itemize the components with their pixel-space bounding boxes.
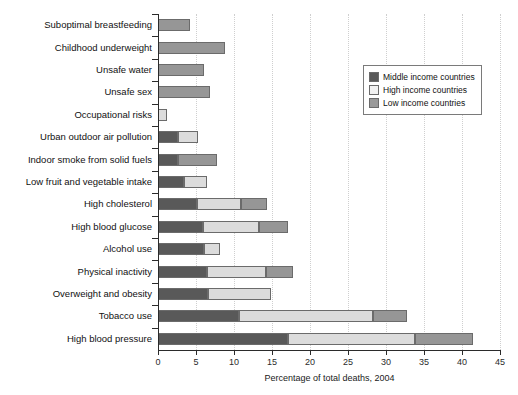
bar-segment — [184, 176, 208, 188]
legend-item: Low income countries — [369, 97, 475, 109]
bar-segment — [288, 333, 415, 345]
bar-row — [158, 310, 500, 322]
bar-segment — [158, 310, 239, 322]
category-label: Overweight and obesity — [2, 288, 152, 299]
bar-row — [158, 42, 500, 54]
category-label: Urban outdoor air pollution — [2, 131, 152, 142]
x-axis-tick — [424, 350, 425, 355]
bar-segment — [178, 131, 199, 143]
x-axis-tick-label: 0 — [143, 357, 173, 367]
bar-segment — [158, 221, 203, 233]
x-axis-tick-label: 45 — [485, 357, 515, 367]
bar-segment — [158, 64, 204, 76]
bar-segment — [158, 333, 288, 345]
bar-row — [158, 333, 500, 345]
bar-segment — [259, 221, 288, 233]
x-axis-tick — [196, 350, 197, 355]
legend-swatch-icon — [369, 85, 379, 95]
bar-segment — [239, 310, 373, 322]
y-axis-tick — [152, 59, 158, 60]
bar-segment — [158, 154, 178, 166]
category-axis-labels: Suboptimal breastfeedingChildhood underw… — [0, 14, 152, 350]
x-axis-tick — [348, 350, 349, 355]
bar-segment — [241, 198, 268, 210]
category-label: Childhood underweight — [2, 42, 152, 53]
y-axis-line — [158, 14, 159, 350]
bar-row — [158, 154, 500, 166]
legend-item: High income countries — [369, 84, 475, 96]
y-axis-tick — [152, 104, 158, 105]
legend-swatch-icon — [369, 98, 379, 108]
bar-segment — [208, 288, 271, 300]
legend-label: Middle income countries — [383, 71, 475, 83]
category-label: High blood glucose — [2, 221, 152, 232]
y-axis-tick — [152, 171, 158, 172]
category-label: Tobacco use — [2, 310, 152, 321]
x-axis-tick-label: 15 — [257, 357, 287, 367]
bar-segment — [178, 154, 218, 166]
bar-row — [158, 288, 500, 300]
y-axis-tick — [152, 238, 158, 239]
legend: Middle income countries High income coun… — [363, 65, 482, 115]
y-axis-tick — [152, 328, 158, 329]
bar-row — [158, 266, 500, 278]
x-axis-tick-label: 10 — [219, 357, 249, 367]
bar-segment — [158, 198, 197, 210]
y-axis-tick — [152, 283, 158, 284]
bar-segment — [197, 198, 241, 210]
y-axis-tick — [152, 36, 158, 37]
category-label: Physical inactivity — [2, 266, 152, 277]
bar-row — [158, 131, 500, 143]
bar-segment — [158, 19, 190, 31]
x-axis-tick — [462, 350, 463, 355]
bar-segment — [158, 42, 225, 54]
category-label: Occupational risks — [2, 109, 152, 120]
bar-segment — [373, 310, 407, 322]
y-axis-tick — [152, 81, 158, 82]
x-axis-tick — [158, 350, 159, 355]
x-axis-tick-label: 5 — [181, 357, 211, 367]
y-axis-tick — [152, 148, 158, 149]
x-axis-tick-label: 35 — [409, 357, 439, 367]
bar-segment — [158, 266, 207, 278]
y-axis-tick — [152, 126, 158, 127]
bar-segment — [158, 86, 210, 98]
x-axis-tick-label: 40 — [447, 357, 477, 367]
category-label: Unsafe sex — [2, 86, 152, 97]
x-axis-tick-label: 30 — [371, 357, 401, 367]
bar-row — [158, 198, 500, 210]
bar-segment — [158, 288, 208, 300]
bar-segment — [203, 221, 259, 233]
bar-row — [158, 221, 500, 233]
x-axis-tick — [386, 350, 387, 355]
x-axis-tick — [234, 350, 235, 355]
bar-row — [158, 243, 500, 255]
category-label: Alcohol use — [2, 243, 152, 254]
y-axis-tick — [152, 193, 158, 194]
grid-line — [500, 14, 501, 350]
bar-chart: Suboptimal breastfeedingChildhood underw… — [0, 0, 518, 395]
bar-segment — [415, 333, 473, 345]
y-axis-tick — [152, 14, 158, 15]
category-label: High cholesterol — [2, 198, 152, 209]
bar-segment — [207, 266, 266, 278]
y-axis-tick — [152, 305, 158, 306]
legend-label: High income countries — [383, 84, 467, 96]
x-axis-tick — [310, 350, 311, 355]
category-label: High blood pressure — [2, 333, 152, 344]
x-axis-line — [158, 350, 501, 351]
bar-segment — [266, 266, 293, 278]
bar-segment — [158, 176, 184, 188]
bar-segment — [158, 109, 167, 121]
x-axis-title: Percentage of total deaths, 2004 — [158, 373, 501, 383]
category-label: Unsafe water — [2, 64, 152, 75]
legend-swatch-icon — [369, 72, 379, 82]
category-label: Low fruit and vegetable intake — [2, 176, 152, 187]
bar-segment — [158, 243, 204, 255]
bar-row — [158, 176, 500, 188]
category-label: Suboptimal breastfeeding — [2, 19, 152, 30]
legend-label: Low income countries — [383, 97, 465, 109]
bar-segment — [204, 243, 220, 255]
y-axis-tick — [152, 260, 158, 261]
bar-row — [158, 19, 500, 31]
